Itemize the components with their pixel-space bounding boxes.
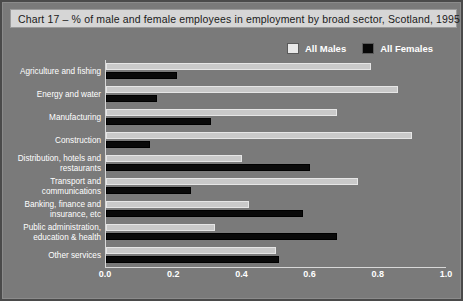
chart-title-bar: Chart 17 – % of male and female employee… <box>10 9 457 28</box>
bar-all-females <box>106 72 177 79</box>
bar-group-row <box>106 221 446 244</box>
legend-label-all-males: All Males <box>305 43 346 54</box>
bar-group-row <box>106 198 446 221</box>
bar-all-males <box>106 86 398 93</box>
bar-all-females <box>106 118 211 125</box>
bar-all-females <box>106 95 157 102</box>
plot-wrapper: Agriculture and fishing Energy and water… <box>10 60 457 292</box>
x-axis-tick-labels: 0.00.20.40.60.81.0 <box>105 269 446 285</box>
page-title: Chart 17 – % of male and female employee… <box>18 13 460 25</box>
bar-all-females <box>106 187 191 194</box>
x-axis-tick-0-0: 0.0 <box>99 269 112 279</box>
bar-group-row <box>106 152 446 175</box>
legend-entry-all-males: All Males <box>287 43 346 54</box>
chart-figure: Chart 17 – % of male and female employee… <box>0 0 463 301</box>
legend-entry-all-females: All Females <box>362 43 433 54</box>
bar-all-males <box>106 224 215 231</box>
bar-group-row <box>106 175 446 198</box>
bar-all-males <box>106 247 276 254</box>
bar-group-row <box>106 129 446 152</box>
chart-legend: All Males All Females <box>287 43 433 54</box>
bar-all-females <box>106 141 150 148</box>
bar-all-females <box>106 233 337 240</box>
bar-all-females <box>106 256 279 263</box>
bar-all-males <box>106 132 412 139</box>
y-axis-label-distribution-hotels-and-restaurants: Distribution, hotels and restaurants <box>10 152 105 175</box>
y-axis-label-banking-finance-and-insurance: Banking, finance and insurance, etc <box>10 198 105 221</box>
bar-group-row <box>106 83 446 106</box>
legend-swatch-all-males <box>287 43 299 54</box>
legend-swatch-all-females <box>362 43 374 54</box>
bar-all-females <box>106 164 310 171</box>
bar-all-males <box>106 178 358 185</box>
bar-all-females <box>106 210 303 217</box>
bar-group-row <box>106 106 446 129</box>
x-axis-tick-0-2: 0.2 <box>167 269 180 279</box>
bar-group-row <box>106 60 446 83</box>
bar-all-males <box>106 109 337 116</box>
x-axis-tick-0-8: 0.8 <box>372 269 385 279</box>
x-axis-tick-0-4: 0.4 <box>235 269 248 279</box>
bar-group-row <box>106 244 446 267</box>
x-axis-tick-0-6: 0.6 <box>303 269 316 279</box>
x-axis-tick-1-0: 1.0 <box>440 269 453 279</box>
bar-all-males <box>106 201 249 208</box>
y-axis-label-other-services: Other services <box>10 244 105 267</box>
y-axis-category-labels: Agriculture and fishing Energy and water… <box>10 60 105 267</box>
plot-area <box>105 60 446 268</box>
legend-label-all-females: All Females <box>380 43 433 54</box>
bar-all-males <box>106 155 242 162</box>
y-axis-label-energy-and-water: Energy and water <box>10 83 105 106</box>
y-axis-label-manufacturing: Manufacturing <box>10 106 105 129</box>
bar-all-males <box>106 63 371 70</box>
y-axis-label-transport-and-communications: Transport and communications <box>10 175 105 198</box>
y-axis-label-construction: Construction <box>10 129 105 152</box>
y-axis-label-public-administration-education-and-health: Public administration, education & healt… <box>10 221 105 244</box>
y-axis-label-agriculture-and-fishing: Agriculture and fishing <box>10 60 105 83</box>
